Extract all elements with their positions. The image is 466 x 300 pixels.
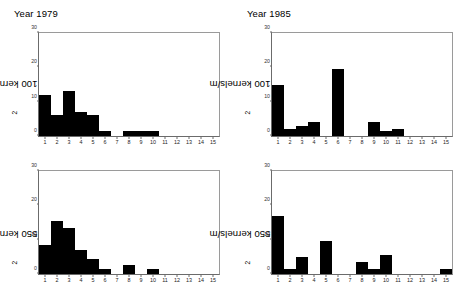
x-axis-tick-label: 14 (198, 277, 204, 283)
x-axis-tick-label: 9 (373, 277, 376, 283)
x-axis-tick-label: 10 (150, 277, 156, 283)
y-axis-label-superscript: 2 (244, 261, 251, 265)
x-axis-tick-label: 5 (325, 139, 328, 145)
y-axis-tick-mark (270, 66, 273, 67)
y-axis-tick-mark (37, 32, 40, 33)
chart-panel-1985-100: Year 1985 100 kernels/m2 010203012345678… (233, 0, 466, 150)
histogram-bar (123, 265, 135, 274)
x-axis-tick-label: 14 (431, 139, 437, 145)
x-axis-tick-mark (398, 274, 399, 277)
y-axis-tick-mark (37, 170, 40, 171)
histogram-bar (272, 216, 284, 274)
y-axis-tick-label: 0 (34, 265, 37, 271)
x-axis-tick-mark (278, 136, 279, 139)
x-axis-tick-label: 8 (361, 139, 364, 145)
x-axis-tick-label: 12 (407, 277, 413, 283)
histogram-bar (63, 228, 75, 274)
x-axis-tick-mark (165, 274, 166, 277)
y-axis-tick-mark (270, 238, 273, 239)
x-axis-tick-mark (69, 136, 70, 139)
x-axis-tick-mark (434, 274, 435, 277)
x-axis-tick-label: 14 (198, 139, 204, 145)
histogram-bar (39, 95, 51, 136)
x-axis-tick-mark (81, 274, 82, 277)
x-axis-tick-label: 6 (337, 277, 340, 283)
x-axis-tick-label: 5 (92, 139, 95, 145)
x-axis-tick-label: 5 (325, 277, 328, 283)
x-axis-tick-label: 2 (289, 139, 292, 145)
x-axis-tick-label: 9 (140, 139, 143, 145)
x-axis-tick-mark (189, 274, 190, 277)
figure-four-histograms: Year 1979 100 kernels/m2 010203012345678… (0, 0, 466, 300)
x-axis-tick-label: 1 (277, 139, 280, 145)
x-axis-tick-label: 7 (349, 139, 352, 145)
x-axis-tick-label: 15 (443, 139, 449, 145)
x-axis-tick-mark (314, 274, 315, 277)
x-axis-tick-mark (290, 274, 291, 277)
x-axis-tick-label: 7 (349, 277, 352, 283)
x-axis-tick-mark (93, 136, 94, 139)
x-axis-tick-mark (350, 136, 351, 139)
y-axis-label-100-kernels: 100 kernels/m2 (2, 30, 22, 138)
x-axis-tick-mark (410, 274, 411, 277)
x-axis-tick-mark (81, 136, 82, 139)
histogram-bar (51, 115, 63, 136)
y-axis-label-550-kernels: 550 kernels/m2 (2, 180, 22, 288)
histogram-bar (87, 115, 99, 136)
x-axis-tick-label: 9 (140, 277, 143, 283)
y-axis-label-100-kernels: 100 kernels/m2 (235, 30, 255, 138)
x-axis-tick-mark (302, 136, 303, 139)
x-axis-tick-label: 7 (116, 139, 119, 145)
y-axis-tick-label: 30 (264, 24, 270, 30)
plot-area-1985-100: 0102030123456789101112131415 (271, 32, 453, 137)
x-axis-tick-label: 6 (337, 139, 340, 145)
y-axis-tick-label: 30 (31, 162, 37, 168)
y-axis-tick-mark (37, 135, 40, 136)
x-axis-tick-label: 13 (186, 139, 192, 145)
bar-series-1985-100: 0102030123456789101112131415 (272, 33, 452, 136)
y-axis-tick-label: 10 (264, 93, 270, 99)
x-axis-tick-mark (141, 274, 142, 277)
chart-panel-1979-100: Year 1979 100 kernels/m2 010203012345678… (0, 0, 233, 150)
y-axis-tick-mark (270, 135, 273, 136)
histogram-bar (380, 255, 392, 274)
x-axis-tick-label: 13 (419, 277, 425, 283)
plot-area-1979-100: 0102030123456789101112131415 (38, 32, 220, 137)
y-axis-tick-label: 20 (264, 196, 270, 202)
y-axis-tick-label: 0 (34, 127, 37, 133)
x-axis-tick-label: 2 (56, 277, 59, 283)
y-axis-label-superscript: 2 (11, 111, 18, 115)
y-axis-label-text: 550 kernels/m (209, 229, 270, 240)
x-axis-tick-label: 3 (68, 139, 71, 145)
y-axis-tick-mark (37, 238, 40, 239)
x-axis-tick-label: 4 (313, 277, 316, 283)
y-axis-tick-mark (37, 100, 40, 101)
x-axis-tick-mark (129, 136, 130, 139)
x-axis-tick-mark (213, 274, 214, 277)
x-axis-tick-mark (189, 136, 190, 139)
y-axis-tick-label: 0 (267, 265, 270, 271)
bar-series-1979-550: 0102030123456789101112131415 (39, 171, 219, 274)
y-axis-label-text: 100 kernels/m (0, 79, 37, 90)
x-axis-tick-mark (57, 274, 58, 277)
panel-title-1985: Year 1985 (247, 8, 291, 19)
y-axis-tick-label: 10 (31, 93, 37, 99)
y-axis-tick-mark (270, 32, 273, 33)
x-axis-tick-mark (165, 136, 166, 139)
x-axis-tick-mark (302, 274, 303, 277)
chart-panel-1985-550: 550 kernels/m2 0102030123456789101112131… (233, 150, 466, 300)
x-axis-tick-label: 8 (128, 277, 131, 283)
y-axis-tick-label: 20 (264, 58, 270, 64)
x-axis-tick-mark (422, 136, 423, 139)
x-axis-tick-label: 8 (128, 139, 131, 145)
x-axis-tick-label: 12 (407, 139, 413, 145)
x-axis-tick-mark (69, 274, 70, 277)
y-axis-tick-label: 0 (267, 127, 270, 133)
x-axis-tick-label: 2 (56, 139, 59, 145)
histogram-bar (75, 112, 87, 136)
histogram-bar (75, 250, 87, 274)
y-axis-tick-mark (270, 170, 273, 171)
panel-title-1979: Year 1979 (14, 8, 58, 19)
x-axis-tick-mark (422, 274, 423, 277)
y-axis-label-superscript: 2 (244, 111, 251, 115)
